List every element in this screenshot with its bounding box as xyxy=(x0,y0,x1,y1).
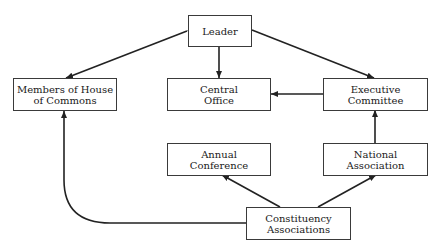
node-constituency-associations: Constituency Associations xyxy=(246,207,351,240)
node-executive-committee: Executive Committee xyxy=(323,78,428,111)
node-annual-conference: Annual Conference xyxy=(167,143,271,176)
node-national-association-label: National Association xyxy=(347,149,405,171)
edge-leader-executive-committee xyxy=(252,30,374,78)
node-members-label: Members of House of Commons xyxy=(17,84,113,106)
node-leader-label: Leader xyxy=(202,26,238,37)
node-leader: Leader xyxy=(188,15,252,47)
party-organization-diagram: Leader Members of House of Commons Centr… xyxy=(0,0,438,252)
node-annual-conference-label: Annual Conference xyxy=(190,149,248,171)
node-executive-committee-label: Executive Committee xyxy=(348,84,404,106)
edge-constituency-national xyxy=(318,175,376,207)
edge-constituency-annual-conference xyxy=(222,175,280,207)
node-constituency-associations-label: Constituency Associations xyxy=(265,213,332,235)
node-national-association: National Association xyxy=(323,143,428,176)
node-members-house-of-commons: Members of House of Commons xyxy=(13,78,117,111)
node-central-office: Central Office xyxy=(167,78,271,111)
node-central-office-label: Central Office xyxy=(200,84,238,106)
edge-leader-members xyxy=(66,31,187,78)
